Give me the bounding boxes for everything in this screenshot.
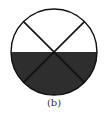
- shaded-lower-half: [0, 52, 108, 100]
- figure-caption: (b): [0, 97, 108, 108]
- fraction-circle-diagram: [0, 0, 108, 100]
